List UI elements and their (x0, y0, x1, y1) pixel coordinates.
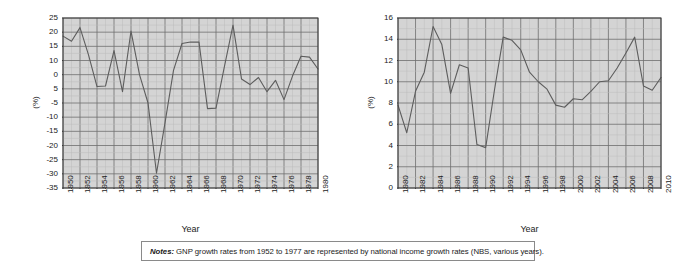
chart-panel-left: (%) 2520151005-5-10-15-20-25-30-35 19501… (0, 0, 340, 232)
x-tick-label: 1978 (305, 175, 313, 193)
notes-box: Notes: GNP growth rates from 1952 to 197… (141, 241, 535, 261)
y-tick-label: 0 (0, 71, 58, 79)
x-tick-label: 1952 (84, 175, 92, 193)
y-tick-label: 25 (0, 14, 58, 22)
y-tick-label: -5 (0, 99, 58, 107)
x-tick-label: 1962 (169, 175, 177, 193)
x-tick-label: 1958 (135, 175, 143, 193)
y-tick-label: 10 (0, 57, 58, 65)
x-tick-label: 1988 (472, 175, 480, 193)
x-tick-label: 1950 (67, 175, 75, 193)
x-tick-label: 1996 (542, 175, 550, 193)
x-axis-title-right: Year (398, 224, 661, 234)
y-tick-label: -35 (0, 184, 58, 192)
y-tick-label: 0 (340, 184, 393, 192)
x-tick-label: 1972 (254, 175, 262, 193)
plot-area-right (397, 17, 662, 189)
y-tick-label: -10 (0, 113, 58, 121)
x-tick-label: 1998 (559, 175, 567, 193)
y-tick-label: -20 (0, 142, 58, 150)
y-tick-label: -15 (0, 127, 58, 135)
notes-body: GNP growth rates from 1952 to 1977 are r… (174, 247, 544, 256)
x-tick-label: 2008 (647, 175, 655, 193)
x-tick-label: 2000 (577, 175, 585, 193)
x-tick-label: 1970 (237, 175, 245, 193)
notes-text: Notes: GNP growth rates from 1952 to 197… (150, 247, 544, 256)
y-tick-label: 4 (340, 142, 393, 150)
x-tick-label: 1974 (271, 175, 279, 193)
y-tick-label: 5 (0, 85, 58, 93)
y-tick-label: -30 (0, 170, 58, 178)
x-tick-label: 2006 (629, 175, 637, 193)
x-tick-label: 1980 (402, 175, 410, 193)
x-axis-title-left: Year (63, 224, 318, 234)
x-tick-label: 1954 (101, 175, 109, 193)
y-tick-label: 10 (340, 78, 393, 86)
y-tick-label: 6 (340, 120, 393, 128)
figure-container: (%) 2520151005-5-10-15-20-25-30-35 19501… (0, 0, 677, 266)
x-tick-label: 2002 (594, 175, 602, 193)
y-tick-label: 14 (340, 35, 393, 43)
x-tick-label: 1966 (203, 175, 211, 193)
x-tick-label: 1960 (152, 175, 160, 193)
y-tick-label: 12 (340, 57, 393, 65)
x-tick-label: 1982 (419, 175, 427, 193)
x-tick-label: 1984 (437, 175, 445, 193)
x-tick-label: 1990 (489, 175, 497, 193)
x-tick-label: 1992 (507, 175, 515, 193)
y-tick-label: 8 (340, 99, 393, 107)
x-tick-label: 1956 (118, 175, 126, 193)
chart-panel-right: (%) 1614121086420 1980198219841986198819… (340, 0, 677, 232)
x-tick-label: 1994 (524, 175, 532, 193)
plot-area-left (62, 17, 319, 189)
x-tick-label: 1964 (186, 175, 194, 193)
x-tick-label: 2010 (665, 175, 673, 193)
y-tick-label: 2 (340, 163, 393, 171)
notes-label: Notes: (150, 247, 174, 256)
x-tick-label: 1980 (322, 175, 330, 193)
y-tick-label: 16 (340, 14, 393, 22)
x-tick-label: 1986 (454, 175, 462, 193)
x-tick-label: 1968 (220, 175, 228, 193)
y-tick-label: 20 (0, 28, 58, 36)
y-tick-label: -25 (0, 156, 58, 164)
x-tick-label: 2004 (612, 175, 620, 193)
x-tick-label: 1976 (288, 175, 296, 193)
y-tick-label: 15 (0, 42, 58, 50)
